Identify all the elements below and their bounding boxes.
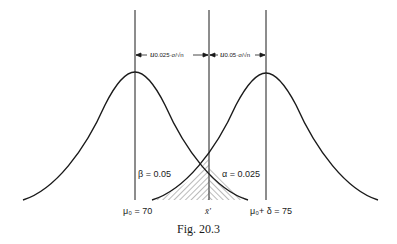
beta-label: β = 0.05	[138, 170, 171, 179]
xbar-label: x̄'	[205, 207, 211, 216]
u-subscript: 0.05	[225, 52, 237, 58]
u-subscript: 0.025	[155, 52, 170, 58]
alpha-label: α = 0.025	[222, 170, 260, 179]
sigma-over-root-n: ·σ/√n	[170, 52, 184, 58]
right-dimension-label: u0.05·σ/√n	[220, 50, 250, 59]
sigma-over-root-n: ·σ/√n	[236, 52, 250, 58]
figure-caption: Fig. 20.3	[0, 222, 397, 237]
diagram-canvas	[0, 0, 397, 244]
alternative-distribution-curve	[152, 73, 378, 200]
left-dimension-label: u0.025·σ/√n	[150, 50, 184, 59]
mu0-label: μ₀ = 70	[123, 207, 152, 216]
mu1-label: μ₀+ δ = 75	[250, 207, 292, 216]
